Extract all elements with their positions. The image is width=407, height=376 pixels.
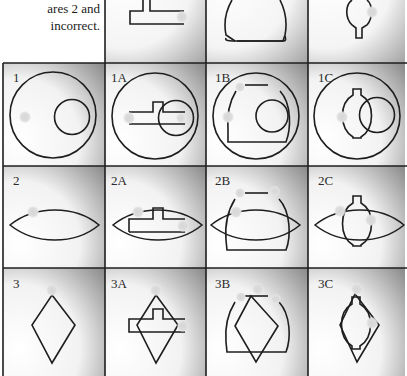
shape-grid-figure: 1 1A 1B 1C (0, 0, 407, 376)
cell-label-2: 2 (13, 173, 20, 188)
cell-label-3: 3 (13, 276, 20, 291)
cell-label-1A: 1A (111, 70, 128, 85)
cell-label-2A: 2A (111, 173, 128, 188)
cell-label-3C: 3C (318, 276, 333, 291)
cell-backgrounds (3, 63, 405, 376)
cell-label-2C: 2C (318, 173, 333, 188)
cell-label-1: 1 (13, 70, 20, 85)
cell-label-3A: 3A (111, 276, 128, 291)
cell-label-2B: 2B (215, 173, 231, 188)
cell-label-3B: 3B (215, 276, 231, 291)
